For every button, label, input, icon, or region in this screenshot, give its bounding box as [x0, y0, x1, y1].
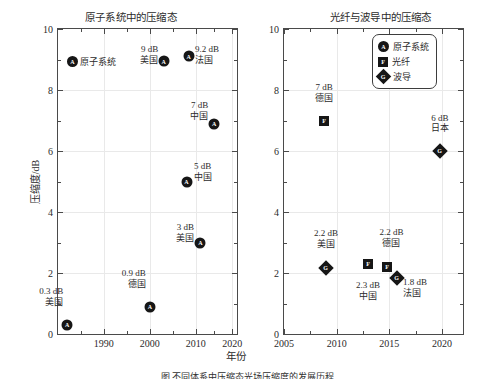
- figure-squeezed-light-development: 原子系统中的压缩态: [0, 0, 495, 379]
- y-tick-minor: [58, 121, 61, 122]
- x-tick-label: 2000: [140, 338, 160, 349]
- y-tick: [284, 334, 289, 335]
- data-point-label: 2.2 dB 德国: [379, 227, 403, 248]
- y-tick-label: 4: [274, 207, 279, 218]
- y-tick-minor: [460, 182, 463, 183]
- data-point-label: 2.3 dB 中国: [356, 281, 380, 302]
- chart-title-right: 光纤与波导中的压缩态: [248, 9, 495, 24]
- x-tick: [196, 329, 197, 334]
- data-point-marker[interactable]: A: [209, 118, 220, 129]
- x-tick-label: 2005: [274, 338, 294, 349]
- y-tick: [284, 90, 289, 91]
- data-point-label: 0.3 dB 美国: [39, 287, 63, 308]
- gridline-h: [58, 212, 237, 213]
- y-tick-label: 10: [43, 24, 53, 35]
- y-tick-right: [232, 334, 237, 335]
- gridline-v: [442, 29, 443, 334]
- y-tick: [284, 151, 289, 152]
- y-tick-minor: [234, 304, 237, 305]
- plot-area-right: 0 2 4 6 8 10 2005 2010 2015 2020: [283, 28, 464, 335]
- x-tick: [104, 329, 105, 334]
- data-point-marker[interactable]: A: [158, 56, 169, 67]
- x-tick-label: 2010: [327, 338, 347, 349]
- gridline-h: [58, 90, 237, 91]
- legend-marker-circle-icon: A: [378, 41, 389, 52]
- y-tick-minor: [58, 182, 61, 183]
- x-tick-minor: [127, 331, 128, 334]
- x-tick-top: [232, 29, 233, 34]
- data-point-label: 1.8 dB 法国: [403, 278, 427, 299]
- y-tick-minor: [284, 121, 287, 122]
- chart-panel-fiber-waveguide: 光纤与波导中的压缩态: [248, 0, 495, 379]
- y-tick-minor: [284, 304, 287, 305]
- legend-marker-diamond-icon: G: [376, 69, 392, 85]
- data-point-label: 7 dB 中国: [190, 101, 208, 122]
- x-tick: [232, 329, 233, 334]
- legend-inline-atomic: A 原子系统: [67, 55, 116, 68]
- x-tick-minor: [127, 29, 128, 32]
- data-point-label: 6 dB 日本: [431, 113, 449, 134]
- gridline-v: [337, 29, 338, 334]
- y-tick-right: [458, 273, 463, 274]
- legend-marker-circle-icon: A: [67, 56, 78, 67]
- data-point-marker[interactable]: A: [195, 237, 206, 248]
- y-tick: [58, 273, 63, 274]
- y-tick-label: 10: [269, 24, 279, 35]
- y-tick-right: [458, 90, 463, 91]
- data-point-marker[interactable]: A: [144, 301, 155, 312]
- x-tick-minor: [173, 29, 174, 32]
- legend-label: 原子系统: [393, 40, 429, 53]
- x-tick-minor: [363, 29, 364, 32]
- y-tick-minor: [58, 243, 61, 244]
- y-tick-minor: [234, 182, 237, 183]
- x-tick-minor: [416, 331, 417, 334]
- y-tick: [58, 212, 63, 213]
- data-point-marker[interactable]: A: [62, 319, 73, 330]
- y-tick-minor: [234, 60, 237, 61]
- x-tick-minor: [310, 331, 311, 334]
- x-axis-title: 年份: [226, 348, 246, 363]
- x-tick-label: 2015: [379, 338, 399, 349]
- legend-marker-square-icon: F: [378, 57, 388, 67]
- y-tick-minor: [284, 243, 287, 244]
- y-tick-right: [458, 29, 463, 30]
- x-tick-minor: [310, 29, 311, 32]
- x-tick-minor: [81, 331, 82, 334]
- data-point-marker[interactable]: F: [382, 262, 392, 272]
- data-point-marker[interactable]: G: [432, 143, 448, 159]
- x-tick: [284, 329, 285, 334]
- y-tick-label: 6: [48, 146, 53, 157]
- data-point-marker[interactable]: F: [319, 116, 329, 126]
- data-point-label: 2.2 dB 美国: [314, 229, 338, 250]
- y-tick-right: [232, 273, 237, 274]
- legend-label: 原子系统: [80, 55, 116, 68]
- data-point-label: 3 dB 美国: [176, 223, 194, 244]
- x-tick-minor: [416, 29, 417, 32]
- x-tick-top: [104, 29, 105, 34]
- data-point-marker[interactable]: A: [181, 176, 192, 187]
- y-tick-right: [458, 151, 463, 152]
- data-point-label: 9 dB 美国: [140, 44, 158, 65]
- legend-item-atomic[interactable]: A 原子系统: [378, 39, 429, 54]
- gridline-v: [104, 29, 105, 334]
- data-point-label: 7 dB 德国: [315, 82, 333, 103]
- data-point-marker[interactable]: A: [183, 51, 194, 62]
- x-tick-label: 1990: [94, 338, 114, 349]
- data-point-label: 9.2 dB 法国: [195, 44, 219, 65]
- y-tick-label: 8: [48, 85, 53, 96]
- legend-label: 光纤: [392, 55, 410, 68]
- gridline-h: [284, 90, 463, 91]
- legend-item-waveguide[interactable]: G 波导: [378, 69, 429, 84]
- y-tick-minor: [284, 60, 287, 61]
- x-tick-label: 2010: [186, 338, 206, 349]
- chart-title-left: 原子系统中的压缩态: [0, 9, 248, 24]
- y-tick-minor: [460, 304, 463, 305]
- x-tick-minor: [214, 331, 215, 334]
- data-point-marker[interactable]: F: [363, 259, 373, 269]
- y-tick-minor: [284, 182, 287, 183]
- x-tick-minor: [173, 331, 174, 334]
- gridline-h: [58, 273, 237, 274]
- legend-item-fiber[interactable]: F 光纤: [378, 54, 429, 69]
- gridline-h: [284, 212, 463, 213]
- y-tick: [58, 334, 63, 335]
